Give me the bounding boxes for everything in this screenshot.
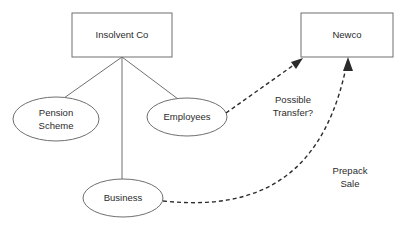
- arrowhead-employees-to-newco: [291, 58, 303, 69]
- edge-business-to-newco: [163, 72, 345, 203]
- arrowhead-business-to-newco: [343, 57, 353, 71]
- label-insolvent-co: Insolvent Co: [96, 29, 149, 40]
- label-prepack-sale: Prepack Sale: [333, 165, 368, 189]
- edge-insolvent-to-employees: [122, 57, 178, 99]
- svg-text:Sale: Sale: [340, 178, 359, 189]
- svg-text:Pension: Pension: [39, 107, 73, 118]
- label-possible-transfer: Possible Transfer?: [273, 94, 313, 118]
- svg-text:Possible: Possible: [275, 94, 311, 105]
- label-employees: Employees: [164, 111, 211, 122]
- svg-text:Scheme: Scheme: [39, 120, 74, 131]
- label-business: Business: [104, 192, 143, 203]
- svg-text:Transfer?: Transfer?: [273, 107, 313, 118]
- edge-insolvent-to-pension: [64, 57, 122, 98]
- diagram-canvas: Insolvent Co Newco Pension Scheme Employ…: [0, 0, 411, 230]
- edge-employees-to-newco: [226, 62, 298, 113]
- svg-text:Prepack: Prepack: [333, 165, 368, 176]
- edge-labels: Possible Transfer? Prepack Sale: [273, 94, 368, 189]
- label-newco: Newco: [332, 29, 361, 40]
- diagram-svg: Insolvent Co Newco Pension Scheme Employ…: [0, 0, 411, 230]
